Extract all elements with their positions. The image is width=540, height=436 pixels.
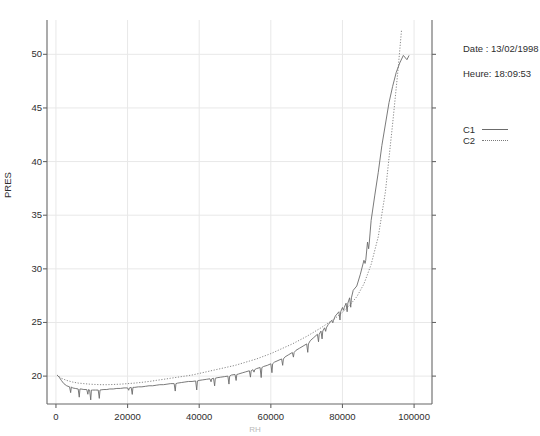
chart-canvas bbox=[0, 0, 445, 436]
y-tick-label: 20 bbox=[18, 371, 42, 381]
x-tick-label: 60000 bbox=[241, 412, 301, 422]
legend-line-swatch bbox=[482, 126, 508, 133]
y-tick-label: 40 bbox=[18, 157, 42, 167]
y-tick-label: 50 bbox=[18, 49, 42, 59]
legend-line-swatch bbox=[482, 137, 508, 144]
legend-label: C2 bbox=[463, 135, 479, 146]
date-text: Date : 13/02/1998 bbox=[463, 44, 539, 54]
y-tick-label: 30 bbox=[18, 264, 42, 274]
time-text: Heure: 18:09:53 bbox=[463, 69, 539, 79]
plot-area bbox=[0, 0, 445, 436]
legend-entry: C1 bbox=[463, 124, 508, 135]
y-tick-label: 35 bbox=[18, 210, 42, 220]
x-tick-label: 100000 bbox=[384, 412, 444, 422]
x-tick-label: 0 bbox=[26, 412, 86, 422]
x-axis-title: RH bbox=[215, 425, 295, 434]
legend-label: C1 bbox=[463, 124, 479, 135]
legend-entry: C2 bbox=[463, 135, 508, 146]
series-line-c1 bbox=[57, 55, 409, 400]
y-axis-title: PRES bbox=[2, 172, 13, 198]
x-tick-label: 80000 bbox=[312, 412, 372, 422]
series-line-c2 bbox=[57, 30, 402, 385]
y-tick-label: 45 bbox=[18, 103, 42, 113]
x-tick-label: 20000 bbox=[98, 412, 158, 422]
legend: C1C2 bbox=[463, 124, 508, 146]
y-tick-label: 25 bbox=[18, 317, 42, 327]
x-tick-label: 40000 bbox=[169, 412, 229, 422]
chart-page: PRES RH 20253035404550 02000040000600008… bbox=[0, 0, 540, 436]
info-panel: Date : 13/02/1998 Heure: 18:09:53 bbox=[463, 44, 539, 78]
